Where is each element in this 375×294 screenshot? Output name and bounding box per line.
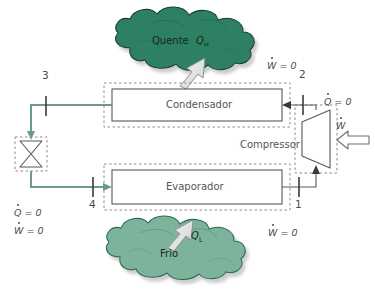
q-equation: = 0	[331, 96, 351, 107]
valve-work-annotation: W = 0	[14, 226, 43, 236]
heat-absorption-label: QL	[191, 231, 203, 244]
condenser-label: Condensador	[166, 100, 232, 110]
w-symbol: W	[14, 225, 23, 236]
cold-reservoir-label: Frio	[160, 249, 178, 259]
state-point-3: 3	[42, 70, 49, 81]
valve-heat-annotation: Q = 0	[14, 208, 42, 218]
w-symbol: W	[336, 120, 345, 131]
state-point-1: 1	[295, 199, 302, 210]
q-symbol: Q	[14, 207, 21, 218]
w-equation: = 0	[277, 227, 297, 238]
compressor-label: Compressor	[240, 140, 300, 150]
overdot-marker	[18, 222, 20, 224]
evaporator-label: Evaporador	[166, 182, 224, 192]
qh-symbol: Q	[196, 35, 204, 46]
pipe-evaporator-to-compressor	[282, 165, 320, 187]
condenser-work-annotation: W = 0	[267, 61, 296, 71]
throttle-valve-symbol	[20, 141, 42, 167]
overdot-marker	[272, 224, 274, 226]
pipe-condenser-to-valve	[27, 105, 112, 140]
qh-subscript: H	[204, 41, 209, 49]
ql-symbol: Q	[191, 230, 199, 241]
overdot-marker	[17, 204, 19, 206]
w-equation: = 0	[23, 225, 43, 236]
compressor-symbol	[302, 110, 330, 168]
state-point-4: 4	[89, 199, 96, 210]
compressor-work-annotation: W	[336, 121, 345, 131]
w-symbol: W	[267, 60, 276, 71]
heat-rejection-label: QH	[196, 36, 209, 49]
overdot-marker	[271, 57, 273, 59]
pipe-valve-to-evaporator	[31, 171, 112, 191]
evaporator-work-annotation: W = 0	[268, 228, 297, 238]
compressor-heat-annotation: Q = 0	[324, 97, 352, 107]
state-point-2: 2	[299, 69, 306, 80]
hot-reservoir-label: Quente	[152, 36, 189, 46]
q-equation: = 0	[21, 207, 41, 218]
work-input-arrow	[337, 131, 369, 149]
pipe-compressor-to-condenser	[282, 101, 316, 110]
overdot-marker	[327, 93, 329, 95]
ql-subscript: L	[199, 236, 203, 244]
overdot-marker	[340, 117, 342, 119]
w-equation: = 0	[276, 60, 296, 71]
w-symbol: W	[268, 227, 277, 238]
q-symbol: Q	[324, 96, 331, 107]
refrigeration-cycle-diagram: Quente QH Frio QL Condensador Evaporador…	[0, 0, 375, 294]
